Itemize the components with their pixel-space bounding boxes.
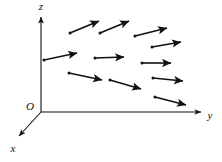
figure-canvas: zyx O — [0, 0, 222, 162]
vector-arrow — [43, 53, 78, 62]
vector-arrows-group — [43, 21, 187, 105]
origin-label: O — [26, 100, 34, 112]
vector-arrow — [109, 79, 142, 90]
vector-field-figure: zyx O — [0, 0, 222, 162]
vector-arrow — [154, 96, 187, 106]
vector-tail-v5 — [43, 59, 46, 62]
vector-tail-v10 — [152, 77, 155, 80]
vector-arrow — [152, 77, 184, 82]
vector-shaft-v3 — [135, 28, 167, 36]
vector-tail-v8 — [68, 72, 71, 75]
vector-shaft-v8 — [69, 73, 102, 80]
vector-shaft-v6 — [95, 57, 124, 58]
vector-tail-v4 — [151, 46, 154, 49]
vector-shaft-v10 — [153, 78, 183, 81]
vector-arrow — [99, 21, 130, 35]
vector-shaft-v9 — [110, 80, 141, 89]
vector-shaft-v1 — [70, 21, 99, 33]
vector-shaft-v4 — [152, 42, 181, 47]
vector-arrow — [134, 28, 168, 38]
axis-labels-group: zyx — [10, 0, 213, 154]
vector-tail-v3 — [134, 35, 137, 38]
vector-tail-v9 — [109, 79, 112, 82]
vector-tail-v11 — [154, 96, 157, 99]
vector-shaft-v2 — [100, 21, 129, 33]
vector-tail-v1 — [69, 32, 72, 35]
vector-shaft-v5 — [44, 53, 77, 60]
axis-line-x — [19, 112, 41, 136]
origin-label-group: O — [26, 100, 34, 112]
axis-label-y: y — [207, 109, 213, 121]
vector-arrow — [69, 21, 100, 35]
vector-tail-v7 — [141, 62, 144, 65]
vector-tail-v2 — [99, 32, 102, 35]
vector-tail-v6 — [94, 57, 97, 60]
vector-arrow — [141, 62, 172, 65]
axes-group — [19, 17, 201, 136]
vector-arrow — [151, 42, 182, 49]
vector-arrow — [94, 57, 125, 60]
axis-label-x: x — [10, 142, 16, 154]
vector-shaft-v11 — [155, 97, 186, 105]
vector-arrow — [68, 72, 103, 81]
axis-label-z: z — [38, 0, 44, 12]
